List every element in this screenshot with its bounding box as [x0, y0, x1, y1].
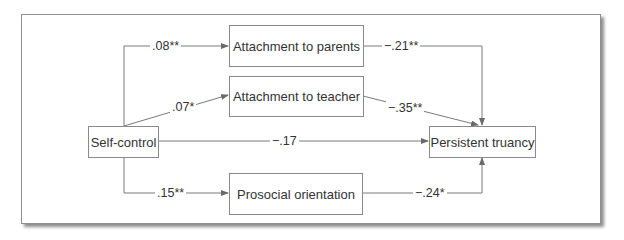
- coef-teacher-truancy: −.35**: [386, 101, 424, 115]
- coef-sc-teacher: .07*: [170, 100, 196, 114]
- coef-parents-truancy: −.21**: [382, 39, 420, 53]
- coef-sc-truancy: −.17: [270, 134, 299, 148]
- node-attachment-to-parents: Attachment to parents: [229, 25, 364, 67]
- node-label: Prosocial orientation: [237, 187, 355, 202]
- coef-sc-parents: .08**: [150, 39, 181, 53]
- node-attachment-to-teacher: Attachment to teacher: [229, 76, 364, 117]
- node-persistent-truancy: Persistent truancy: [429, 126, 536, 158]
- coef-sc-prosocial: .15**: [155, 186, 186, 200]
- node-label: Attachment to parents: [233, 39, 360, 54]
- node-label: Attachment to teacher: [233, 89, 360, 104]
- coef-prosocial-truancy: −.24*: [413, 186, 447, 200]
- node-label: Self-control: [91, 135, 157, 150]
- node-label: Persistent truancy: [430, 135, 534, 150]
- node-prosocial-orientation: Prosocial orientation: [229, 173, 363, 215]
- node-self-control: Self-control: [88, 126, 159, 158]
